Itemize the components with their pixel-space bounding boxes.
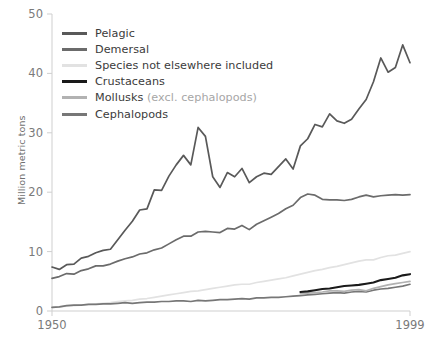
legend-item-label: Cephalopods [95,108,168,121]
legend-swatch-line-icon [62,80,87,83]
chart-container: 0102030405019501999 Million metric tons … [0,0,439,347]
y-axis-title: Million metric tons [16,115,27,205]
y-axis-tick-label: 20 [28,185,43,199]
legend-item[interactable]: Crustaceans [62,74,273,90]
legend-item-label: Crustaceans [95,75,165,88]
x-axis-tick-label: 1950 [37,318,66,332]
legend-item[interactable]: Species not elsewhere included [62,57,273,73]
legend-item[interactable]: Cephalopods [62,106,273,122]
series-line [52,284,410,307]
legend-item-label: Mollusks (excl. cephalopods) [95,91,257,104]
legend-swatch-line-icon [62,64,87,67]
legend-swatch-line-icon [62,113,87,116]
legend-swatch-line-icon [62,48,87,51]
legend-swatch-line-icon [62,96,87,99]
x-axis-tick-label: 1999 [395,318,424,332]
y-axis-tick-label: 30 [28,126,43,140]
y-axis-tick-label: 50 [28,7,43,21]
legend-item[interactable]: Demersal [62,41,273,57]
chart-legend: PelagicDemersalSpecies not elsewhere inc… [62,25,273,122]
y-axis-tick-label: 40 [28,66,43,80]
legend-item[interactable]: Mollusks (excl. cephalopods) [62,90,273,106]
legend-item[interactable]: Pelagic [62,25,273,41]
y-axis-tick-label: 0 [36,304,43,318]
legend-item-label: Pelagic [95,27,135,40]
y-axis-tick-label: 10 [28,245,43,259]
legend-item-label: Demersal [95,43,149,56]
legend-item-sublabel: (excl. cephalopods) [147,91,257,104]
series-line [52,194,410,278]
legend-item-label: Species not elsewhere included [95,59,273,72]
legend-swatch-line-icon [62,32,87,35]
